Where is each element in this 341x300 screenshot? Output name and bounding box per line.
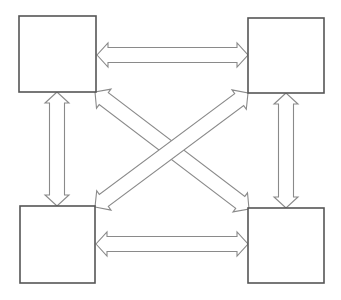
diagram-canvas	[0, 0, 341, 300]
double-arrow-bottom-horizontal	[96, 232, 248, 256]
double-arrow-left-vertical	[45, 92, 69, 206]
double-arrow-top-horizontal	[97, 43, 248, 67]
node-box-top-right	[248, 18, 324, 93]
node-box-bottom-left	[20, 206, 95, 283]
node-box-bottom-right	[248, 208, 324, 283]
node-box-top-left	[19, 16, 96, 92]
double-arrow-right-vertical	[274, 93, 298, 208]
